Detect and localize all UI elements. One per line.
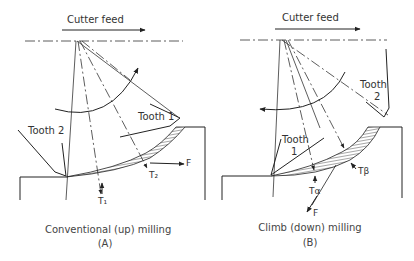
tooth-2-label-b-line1: Tooth (360, 79, 387, 90)
chip-a (66, 127, 185, 177)
force-arrow-a (150, 163, 184, 164)
cutter-feed-label-a: Cutter feed (67, 14, 124, 25)
caption-a: Conventional (up) milling (45, 224, 165, 235)
force-label-a: F (186, 158, 191, 168)
tooth-2-label-b-line2: 2 (374, 91, 380, 102)
t-alpha-label: Tα (309, 186, 320, 196)
t2-label: T₂ (149, 170, 158, 180)
tooth-1-label-b-line2: 1 (291, 146, 297, 157)
caption-letter-a: (A) (45, 238, 165, 249)
tooth-1-label-b-line1: Tooth (282, 134, 309, 145)
panel-a (18, 30, 205, 200)
workpiece-b (222, 176, 271, 200)
caption-b: Climb (down) milling (250, 222, 370, 233)
t-beta-label: Tβ (358, 166, 369, 176)
force-label-b: F (313, 208, 318, 218)
caption-letter-b: (B) (250, 237, 370, 248)
cutter-feed-label-b: Cutter feed (282, 12, 339, 23)
rotation-arrow-a (55, 68, 138, 113)
rotation-arrow-b (260, 72, 345, 110)
tooth-2-a (18, 130, 66, 176)
tooth-2-label-a: Tooth 2 (28, 125, 64, 136)
tooth-1-label-a: Tooth 1 (138, 111, 174, 122)
workpiece-a (20, 177, 66, 200)
panel-b (222, 29, 402, 212)
t1-label: T₁ (98, 196, 107, 206)
